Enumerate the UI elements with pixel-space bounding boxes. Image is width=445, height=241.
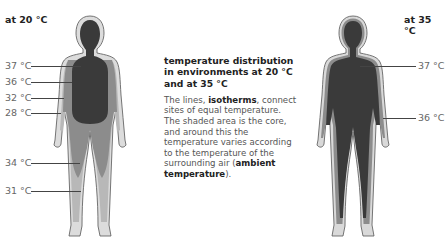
isotherm-label-28: 28 °C xyxy=(5,108,32,118)
leader-line-34 xyxy=(31,163,80,164)
isotherm-label-31: 31 °C xyxy=(5,186,32,196)
leader-line-31 xyxy=(31,191,81,192)
caption-body: The lines, isotherms, connect sites of e… xyxy=(164,95,299,180)
isotherm-label-37: 37 °C xyxy=(5,61,32,71)
caption-heading: temperature distribution in environments… xyxy=(164,55,299,89)
leader-line-36-right xyxy=(383,118,416,119)
term-isotherms: isotherms xyxy=(208,95,256,105)
caption-text-2: , connect sites of equal temperature. Th… xyxy=(164,95,296,169)
caption: temperature distribution in environments… xyxy=(164,55,299,180)
isotherm-label-34: 34 °C xyxy=(5,158,32,168)
isotherm-label-36-right: 36 °C xyxy=(418,113,445,123)
caption-text-1: The lines, xyxy=(164,95,208,105)
leader-line-28 xyxy=(31,113,61,114)
caption-text-3: ). xyxy=(225,169,231,179)
isotherm-label-32: 32 °C xyxy=(5,93,32,103)
leader-line-36 xyxy=(31,82,72,83)
isotherm-label-37-right: 37 °C xyxy=(418,61,445,71)
isotherm-label-36: 36 °C xyxy=(5,77,32,87)
leader-line-37-right xyxy=(360,66,416,67)
leader-line-37 xyxy=(31,66,81,67)
leader-line-32 xyxy=(31,98,64,99)
